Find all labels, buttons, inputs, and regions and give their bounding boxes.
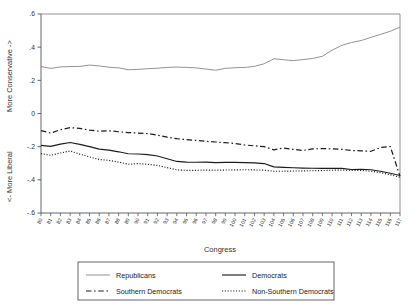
legend-label: Republicans — [116, 271, 156, 280]
x-tick-label: 84 — [74, 217, 82, 225]
x-tick-label: 85 — [84, 217, 92, 225]
x-tick-label: 87 — [103, 217, 111, 225]
x-tick-label: 116 — [384, 217, 393, 227]
y-tick-label: .4 — [29, 44, 35, 51]
x-axis-title: Congress — [204, 245, 236, 254]
x-tick-label: 108 — [306, 217, 315, 228]
party-ideology-line-chart: More Conservative -> <- More Liberal .6.… — [0, 0, 411, 304]
y-tick-label: .6 — [29, 10, 35, 17]
x-tick-label: 111 — [335, 217, 344, 227]
x-tick-label: 88 — [113, 217, 121, 225]
y-tick-label: .2 — [29, 77, 35, 84]
legend-label: Southern Democrats — [116, 287, 182, 296]
x-tick-label: 94 — [171, 217, 179, 225]
series-line-non-southern-democrats — [41, 151, 400, 177]
x-tick-label: 105 — [277, 217, 286, 228]
y-axis-label-conservative: More Conservative -> — [5, 39, 14, 112]
y-tick-label: -.2 — [27, 143, 35, 150]
y-tick-label: 0 — [31, 110, 35, 117]
y-axis-ticks: .6.4.20-.2-.4-.6 — [27, 10, 41, 216]
x-tick-label: 106 — [286, 217, 295, 228]
x-tick-label: 114 — [364, 217, 373, 227]
legend: RepublicansDemocratsSouthern DemocratsNo… — [86, 271, 334, 296]
x-tick-label: 99 — [220, 217, 228, 225]
x-tick-label: 93 — [162, 217, 170, 225]
series-line-republicans — [41, 27, 400, 70]
legend-label: Democrats — [252, 271, 287, 280]
x-tick-label: 100 — [228, 217, 237, 228]
x-tick-label: 80 — [35, 217, 43, 225]
x-tick-label: 90 — [132, 217, 140, 225]
x-tick-label: 92 — [152, 217, 160, 225]
legend-label: Non-Southern Democrats — [252, 287, 334, 296]
data-series-group — [41, 27, 400, 177]
x-tick-label: 97 — [200, 217, 208, 225]
x-tick-label: 109 — [315, 217, 324, 228]
x-tick-label: 98 — [210, 217, 218, 225]
x-tick-label: 110 — [325, 217, 334, 227]
y-axis-label-liberal: <- More Liberal — [5, 151, 14, 202]
x-tick-label: 117 — [393, 217, 402, 227]
x-tick-label: 82 — [55, 217, 63, 225]
x-tick-label: 81 — [45, 217, 53, 225]
y-tick-label: -.4 — [27, 176, 35, 183]
x-tick-label: 112 — [345, 217, 354, 227]
x-tick-label: 95 — [181, 217, 189, 225]
x-tick-label: 101 — [238, 217, 247, 228]
chart-figure: More Conservative -> <- More Liberal .6.… — [0, 0, 411, 304]
x-tick-label: 115 — [374, 217, 383, 227]
x-tick-label: 96 — [191, 217, 199, 225]
x-axis-ticks: 8081828384858687888990919293949596979899… — [35, 213, 402, 228]
x-tick-label: 113 — [354, 217, 363, 227]
y-tick-label: -.6 — [27, 209, 35, 216]
x-tick-label: 107 — [296, 217, 305, 228]
x-tick-label: 86 — [94, 217, 102, 225]
x-tick-label: 104 — [267, 217, 276, 228]
x-tick-label: 91 — [142, 217, 150, 225]
x-tick-label: 83 — [65, 217, 73, 225]
x-tick-label: 103 — [257, 217, 266, 228]
x-tick-label: 102 — [248, 217, 257, 228]
x-tick-label: 89 — [123, 217, 131, 225]
